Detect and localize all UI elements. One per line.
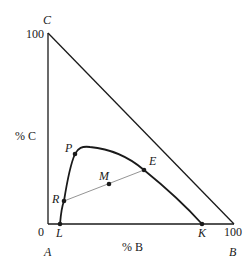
axis-label-b: % B xyxy=(122,240,143,254)
axis-label-c: % C xyxy=(15,129,36,143)
point-R xyxy=(62,199,67,204)
point-E xyxy=(142,168,147,173)
tick-origin-0: 0 xyxy=(38,225,44,239)
binodal-curve xyxy=(60,147,202,224)
vertex-label-A: A xyxy=(43,245,52,259)
label-P: P xyxy=(64,141,73,155)
label-K: K xyxy=(197,226,207,240)
label-R: R xyxy=(51,192,60,206)
tick-b-100: 100 xyxy=(224,225,242,239)
label-E: E xyxy=(148,154,157,168)
ternary-diagram: C A B 100 0 100 % C % B P E M R L K xyxy=(0,0,250,265)
hypotenuse-line xyxy=(48,33,234,224)
label-L: L xyxy=(55,226,63,240)
vertex-label-C: C xyxy=(43,13,52,27)
tick-c-100: 100 xyxy=(26,27,44,41)
point-P xyxy=(73,152,78,157)
vertex-label-B: B xyxy=(229,245,237,259)
label-M: M xyxy=(98,169,110,183)
